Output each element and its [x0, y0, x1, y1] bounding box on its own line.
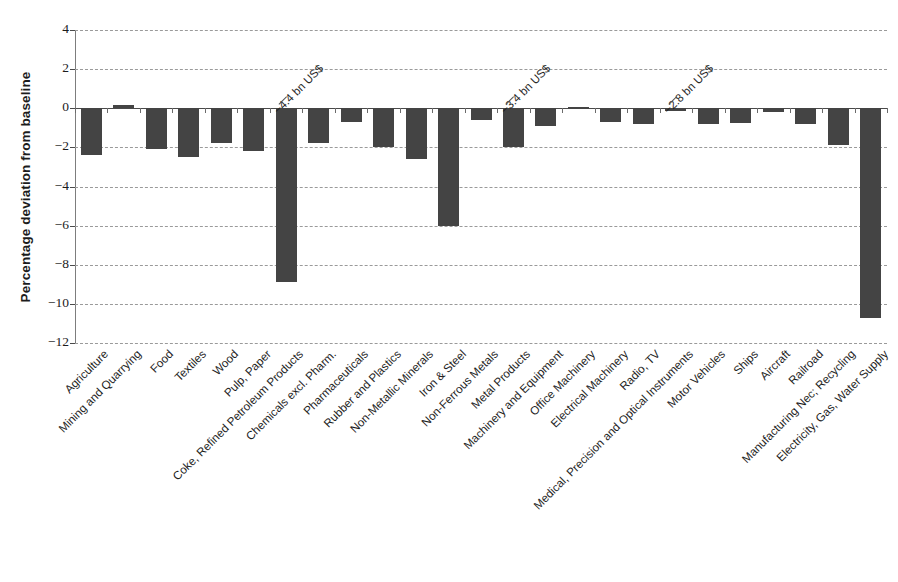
- x-tick-mark: [140, 108, 141, 113]
- y-tick-label: 4: [23, 21, 69, 37]
- bar[interactable]: [308, 108, 329, 143]
- x-axis-labels: AgricultureMining and QuarryingFoodTexti…: [75, 347, 887, 577]
- y-tick-label: −12: [23, 334, 69, 350]
- bar[interactable]: [730, 108, 751, 123]
- bar-series: [75, 30, 887, 343]
- y-tick-label: 0: [23, 99, 69, 115]
- x-tick-mark: [660, 108, 661, 113]
- x-tick-mark: [757, 108, 758, 113]
- bar[interactable]: [341, 108, 362, 122]
- x-tick-mark: [237, 108, 238, 113]
- x-tick-mark: [822, 108, 823, 113]
- bar[interactable]: [471, 108, 492, 120]
- x-tick-mark: [887, 108, 888, 113]
- x-tick-mark: [302, 108, 303, 113]
- x-tick-mark: [562, 108, 563, 113]
- bar[interactable]: [211, 108, 232, 143]
- bar[interactable]: [633, 108, 654, 124]
- bar[interactable]: [81, 108, 102, 155]
- y-tick-label: −4: [23, 178, 69, 194]
- x-tick-mark: [432, 108, 433, 113]
- x-tick-mark: [107, 108, 108, 113]
- x-tick-mark: [367, 108, 368, 113]
- bar[interactable]: [795, 108, 816, 124]
- x-tick-mark: [790, 108, 791, 113]
- y-tick-label: −6: [23, 217, 69, 233]
- bar[interactable]: [698, 108, 719, 124]
- bar[interactable]: [113, 105, 134, 108]
- x-tick-mark: [75, 108, 76, 113]
- bar[interactable]: [178, 108, 199, 157]
- bar[interactable]: [828, 108, 849, 145]
- y-tick-label: −2: [23, 138, 69, 154]
- chart-page: Percentage deviation from baseline 420−2…: [0, 0, 898, 582]
- bar[interactable]: [438, 108, 459, 225]
- x-tick-mark: [465, 108, 466, 113]
- x-tick-mark: [497, 108, 498, 113]
- plot-area: −4.4 bn US$−3.4 bn US$−2.8 bn US$: [75, 30, 887, 343]
- bar[interactable]: [860, 108, 881, 317]
- y-tick-label: −10: [23, 295, 69, 311]
- y-tick-label: −8: [23, 256, 69, 272]
- bar[interactable]: [276, 108, 297, 282]
- x-tick-mark: [725, 108, 726, 113]
- y-tick-label: 2: [23, 60, 69, 76]
- x-tick-mark: [595, 108, 596, 113]
- bar[interactable]: [406, 108, 427, 159]
- x-tick-mark: [335, 108, 336, 113]
- x-tick-mark: [530, 108, 531, 113]
- bar[interactable]: [243, 108, 264, 151]
- bar[interactable]: [600, 108, 621, 122]
- x-tick-mark: [692, 108, 693, 113]
- x-tick-mark: [205, 108, 206, 113]
- bar[interactable]: [146, 108, 167, 149]
- bar[interactable]: [373, 108, 394, 147]
- bar[interactable]: [568, 107, 589, 109]
- x-tick-mark: [400, 108, 401, 113]
- bar[interactable]: [763, 108, 784, 112]
- x-tick-mark: [270, 108, 271, 113]
- x-tick-mark: [855, 108, 856, 113]
- gridline: [75, 343, 887, 344]
- bar[interactable]: [535, 108, 556, 126]
- x-tick-mark: [172, 108, 173, 113]
- x-tick-mark: [627, 108, 628, 113]
